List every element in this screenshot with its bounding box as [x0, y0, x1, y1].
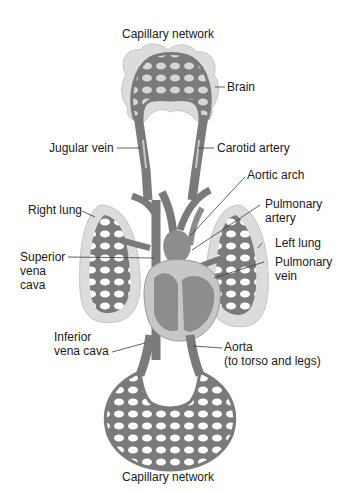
label-inferior-vena-cava-2: vena cava: [54, 344, 109, 358]
label-superior-vena-cava-2: vena: [20, 264, 46, 278]
label-right-lung: Right lung: [28, 203, 82, 217]
label-jugular-vein: Jugular vein: [49, 141, 114, 155]
label-aorta-2: (to torso and legs): [224, 354, 321, 368]
label-capillary-network-top: Capillary network: [122, 27, 214, 41]
label-superior-vena-cava-3: cava: [20, 278, 45, 292]
label-pulmonary-artery-2: artery: [265, 211, 296, 225]
label-aortic-arch: Aortic arch: [247, 168, 304, 182]
label-brain: Brain: [227, 80, 255, 94]
label-superior-vena-cava-1: Superior: [20, 250, 65, 264]
label-pulmonary-artery-1: Pulmonary: [265, 197, 322, 211]
label-pulmonary-vein-1: Pulmonary: [275, 255, 332, 269]
label-left-lung: Left lung: [275, 236, 321, 250]
label-aorta-1: Aorta: [224, 340, 253, 354]
label-carotid-artery: Carotid artery: [217, 141, 290, 155]
jugular-vein: [138, 115, 148, 200]
carotid-artery: [192, 115, 204, 200]
brain: [122, 44, 219, 122]
right-lung: [80, 205, 141, 323]
aorta: [190, 335, 200, 375]
inferior-vena-cava: [140, 335, 150, 375]
lower-capillary-network: [105, 372, 234, 470]
label-pulmonary-vein-2: vein: [275, 269, 297, 283]
label-capillary-network-bottom: Capillary network: [122, 470, 214, 484]
label-inferior-vena-cava-1: Inferior: [54, 330, 91, 344]
